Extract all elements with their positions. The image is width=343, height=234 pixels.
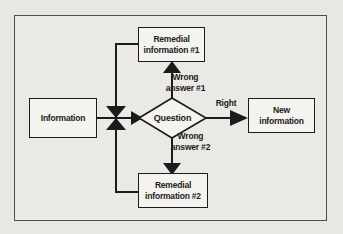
edge-label-wrong-answer-2: Wrong answer #2 — [163, 131, 218, 152]
node-remedial-information-1: Remedial information #1 — [138, 27, 205, 62]
node-information: Information — [29, 98, 97, 138]
edge-label-right: Right — [208, 98, 244, 109]
node-remedial-information-2: Remedial information #2 — [138, 173, 208, 208]
flowchart-figure: Information Remedial information #1 Reme… — [0, 0, 343, 234]
node-new-information: New information — [248, 98, 315, 133]
new-information-arrowhead-icon — [230, 110, 248, 126]
merge-up-arrowhead-icon — [106, 118, 126, 130]
merge-down-arrowhead-icon — [106, 106, 126, 118]
edge-label-wrong-answer-1: Wrong answer #1 — [158, 72, 213, 93]
